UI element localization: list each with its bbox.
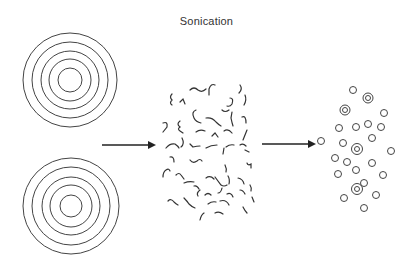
arrow-right-icon — [262, 140, 316, 148]
sonication-diagram — [0, 0, 413, 275]
multilamellar-vesicle-top — [23, 33, 117, 127]
small-vesicles — [318, 87, 395, 212]
multilamellar-vesicle-bottom — [23, 158, 119, 254]
arrow-right-icon — [102, 141, 156, 149]
lipid-fragments — [163, 85, 254, 221]
